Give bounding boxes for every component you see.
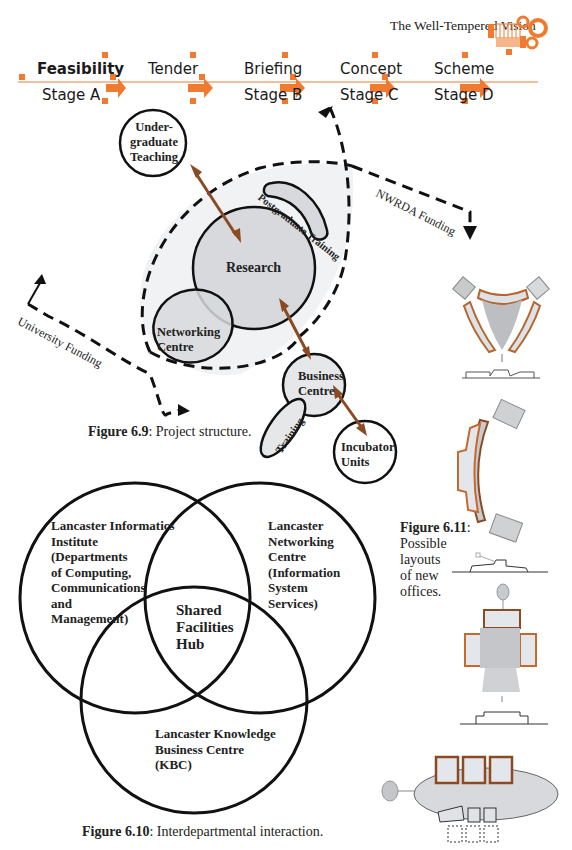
stage-scheme-label: Scheme bbox=[434, 60, 494, 78]
caption-text: : Interdepartmental interaction. bbox=[149, 824, 323, 839]
figure-6-11-caption: Figure 6.11: Possible layouts of new off… bbox=[400, 520, 471, 600]
set-lancaster-knowledge-business-centre: Lancaster Knowledge Business Centre (KBC… bbox=[155, 726, 276, 773]
stage-b-label: Stage B bbox=[244, 86, 302, 104]
stage-feasibility-label: Feasibility bbox=[37, 60, 124, 78]
node-training: Training bbox=[272, 415, 308, 457]
nwrda-funding-label: NWRDA Funding bbox=[373, 186, 458, 239]
layout-ellipse bbox=[382, 757, 558, 842]
university-funding-label: University Funding bbox=[15, 314, 105, 371]
node-postgraduate-training: Postgraduate Training bbox=[255, 190, 344, 264]
figure-6-10-caption: Figure 6.10: Interdepartmental interacti… bbox=[82, 824, 323, 840]
stage-d-label: Stage D bbox=[434, 86, 494, 104]
gears-grid-icon bbox=[0, 0, 572, 850]
stage-a-label: Stage A bbox=[42, 86, 100, 104]
office-layout-sketches bbox=[0, 0, 572, 850]
project-structure-diagram bbox=[0, 0, 572, 850]
caption-label: Figure 6.11 bbox=[400, 520, 467, 535]
caption-label: Figure 6.9 bbox=[88, 424, 148, 439]
stage-timeline bbox=[0, 0, 572, 850]
set-shared-facilities-hub: Shared Facilities Hub bbox=[176, 602, 233, 653]
set-lancaster-networking-centre: Lancaster Networking Centre (Information… bbox=[268, 518, 340, 611]
stage-tender-label: Tender bbox=[148, 60, 198, 78]
figure-6-9-caption: Figure 6.9: Project structure. bbox=[88, 424, 251, 440]
node-research: Research bbox=[226, 260, 281, 275]
node-business-centre: Business Centre bbox=[298, 369, 344, 399]
layout-cross bbox=[460, 584, 548, 724]
stage-concept-label: Concept bbox=[340, 60, 402, 78]
node-undergraduate-teaching: Under- graduate Teaching bbox=[124, 120, 184, 165]
running-title: The Well-Tempered Vision bbox=[390, 18, 536, 34]
stage-briefing-label: Briefing bbox=[244, 60, 302, 78]
node-incubator-units: Incubator Units bbox=[341, 440, 394, 470]
node-networking-centre: Networking Centre bbox=[157, 325, 220, 355]
set-lancaster-informatics-institute: Lancaster Informatics Institute (Departm… bbox=[51, 518, 175, 627]
layout-trefoil bbox=[453, 277, 550, 378]
stage-c-label: Stage C bbox=[340, 86, 399, 104]
caption-text: : Project structure. bbox=[148, 424, 251, 439]
caption-label: Figure 6.10 bbox=[82, 824, 149, 839]
venn-diagram bbox=[0, 0, 572, 850]
